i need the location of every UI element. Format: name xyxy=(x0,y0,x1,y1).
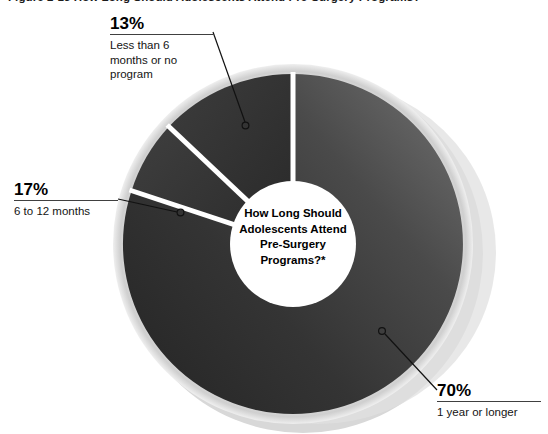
callout-70-percent-value: 70% xyxy=(437,381,541,401)
callout-17-percent: 17% 6 to 12 months xyxy=(14,180,118,219)
callout-13-percent: 13% Less than 6 months or no program xyxy=(110,14,214,82)
callout-70-percent: 70% 1 year or longer xyxy=(437,381,541,420)
callout-13-desc-line-1: Less than 6 xyxy=(110,38,214,53)
donut-hole xyxy=(230,181,356,307)
callout-17-rule xyxy=(14,200,118,201)
callout-13-desc-line-2: months or no xyxy=(110,53,214,68)
callout-17-percent-value: 17% xyxy=(14,180,118,200)
callout-17-desc-line-1: 6 to 12 months xyxy=(14,204,118,219)
callout-70-desc-line-1: 1 year or longer xyxy=(437,405,541,420)
callout-70-rule xyxy=(437,401,541,402)
callout-13-rule xyxy=(110,34,214,35)
chart-figure: Figure 2-13 How Long Should Adolescents … xyxy=(0,0,548,434)
callout-13-desc-line-3: program xyxy=(110,67,214,82)
callout-13-percent-value: 13% xyxy=(110,14,214,34)
